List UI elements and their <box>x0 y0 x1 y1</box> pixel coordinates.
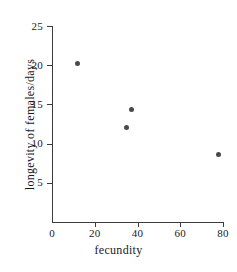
y-axis-title: longevity of females/days <box>24 25 37 225</box>
y-axis-tick <box>47 26 52 27</box>
x-axis-tick-label: 20 <box>82 228 108 239</box>
x-axis-tick-label: 80 <box>210 228 236 239</box>
y-axis-line <box>52 26 53 223</box>
y-axis-tick <box>47 144 52 145</box>
data-point <box>124 125 129 130</box>
y-axis-tick <box>47 183 52 184</box>
y-axis-tick <box>47 65 52 66</box>
x-axis-title: fecundity <box>0 244 237 257</box>
scatter-chart: 510152025 020406080 longevity of females… <box>0 0 237 272</box>
x-axis-tick-label: 40 <box>125 228 151 239</box>
x-axis-tick-label: 0 <box>39 228 65 239</box>
x-axis-tick-label: 60 <box>167 228 193 239</box>
y-axis-tick <box>47 104 52 105</box>
data-point <box>216 152 221 157</box>
data-point <box>129 107 134 112</box>
data-point <box>75 61 80 66</box>
